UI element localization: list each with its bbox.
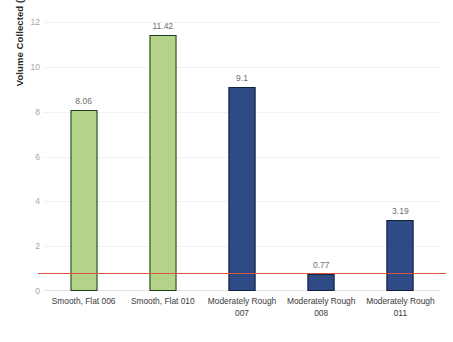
- x-tick-label: Moderately Rough008: [282, 296, 361, 319]
- x-axis-tick-labels: Smooth, Flat 006Smooth, Flat 010Moderate…: [44, 296, 440, 336]
- bar[interactable]: [308, 274, 335, 291]
- bar[interactable]: [149, 35, 176, 291]
- y-tick-label: 8: [14, 107, 40, 117]
- bar-chart: Volume Collected (cc) 024681012 8.0611.4…: [0, 0, 453, 342]
- bar-value-label: 11.42: [152, 21, 173, 31]
- bar-value-label: 3.19: [392, 206, 409, 216]
- x-tick-label-line1: Moderately Rough: [366, 296, 434, 306]
- bar-slot: 9.1: [202, 22, 281, 291]
- x-tick-label: Moderately Rough011: [361, 296, 440, 319]
- y-tick-label: 4: [14, 196, 40, 206]
- x-tick-label: Moderately Rough007: [202, 296, 281, 319]
- y-axis-tick-labels: 024681012: [10, 22, 40, 291]
- plot-area: 8.0611.429.10.773.19: [44, 22, 440, 291]
- x-tick-label: Smooth, Flat 010: [123, 296, 202, 308]
- x-tick-label-line2: 008: [282, 308, 361, 320]
- x-tick-label-line2: 011: [361, 308, 440, 320]
- x-tick-label-line1: Moderately Rough: [208, 296, 276, 306]
- bar-value-label: 9.1: [236, 73, 248, 83]
- bar-slot: 3.19: [361, 22, 440, 291]
- y-tick-label: 6: [14, 152, 40, 162]
- bar-value-label: 0.77: [313, 260, 330, 270]
- bar-value-label: 8.06: [75, 96, 92, 106]
- bar-slot: 8.06: [44, 22, 123, 291]
- y-tick-label: 12: [14, 17, 40, 27]
- y-tick-label: 2: [14, 241, 40, 251]
- bar-slot: 0.77: [282, 22, 361, 291]
- x-tick-label-line1: Smooth, Flat 006: [52, 296, 116, 306]
- bar-slot: 11.42: [123, 22, 202, 291]
- y-tick-label: 0: [14, 286, 40, 296]
- x-tick-label-line1: Moderately Rough: [287, 296, 355, 306]
- x-tick-label-line1: Smooth, Flat 010: [131, 296, 195, 306]
- y-tick-label: 10: [14, 62, 40, 72]
- threshold-line: [38, 273, 446, 274]
- x-tick-label-line2: 007: [202, 308, 281, 320]
- bar[interactable]: [70, 110, 97, 291]
- bar[interactable]: [228, 87, 255, 291]
- x-tick-label: Smooth, Flat 006: [44, 296, 123, 308]
- bar[interactable]: [387, 220, 414, 292]
